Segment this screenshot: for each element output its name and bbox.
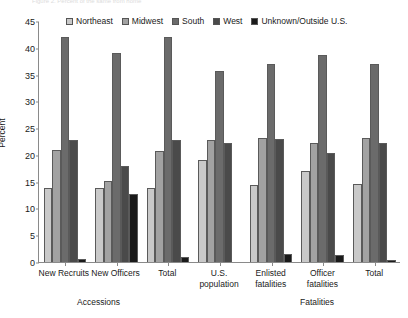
x-axis-tick-label: New Recruits	[38, 268, 90, 290]
group-label-accessions: Accessions	[77, 297, 120, 307]
x-axis-tick-mark	[168, 262, 169, 266]
bar-chart-figure: Figure 2. Percent of the same from home …	[0, 0, 408, 318]
x-axis-tick-label: Total	[348, 268, 400, 290]
x-axis-tick-mark	[65, 262, 66, 266]
bar	[327, 153, 336, 262]
bar	[52, 150, 61, 262]
bar	[267, 64, 276, 262]
bar	[69, 140, 78, 262]
bar	[95, 188, 104, 262]
bar	[181, 257, 190, 262]
bar	[121, 166, 130, 262]
y-axis-tick-mark	[36, 22, 39, 23]
x-axis-tick-labels: New RecruitsNew OfficersTotalU.S. popula…	[38, 268, 400, 290]
bar	[335, 255, 344, 262]
y-axis-tick-mark	[36, 263, 39, 264]
x-axis-tick-label: Enlisted fatalities	[245, 268, 297, 290]
x-axis-tick-mark	[323, 262, 324, 266]
y-axis-tick-mark	[36, 102, 39, 103]
bar	[387, 260, 396, 262]
bar	[215, 71, 224, 262]
bar	[198, 160, 207, 262]
bar	[353, 184, 362, 262]
y-axis-label: Percent	[0, 118, 7, 147]
bar	[147, 188, 156, 262]
bar-group	[91, 22, 143, 262]
group-label-fatalities: Fatalities	[300, 297, 334, 307]
bar-group	[194, 22, 246, 262]
bar	[258, 138, 267, 262]
bar	[310, 143, 319, 262]
bar	[44, 188, 53, 262]
bar-group	[142, 22, 194, 262]
bar	[362, 138, 371, 262]
bar	[155, 151, 164, 262]
bar	[379, 143, 388, 262]
plot-area: 051015202530354045	[38, 22, 400, 263]
x-axis-tick-label: U.S. population	[193, 268, 245, 290]
x-axis-tick-mark	[375, 262, 376, 266]
y-axis-tick-mark	[36, 48, 39, 49]
bar	[61, 37, 70, 262]
bar-group	[39, 22, 91, 262]
bar	[112, 53, 121, 262]
bar	[78, 259, 87, 262]
bar	[164, 37, 173, 262]
bar	[224, 143, 233, 262]
y-axis-tick-mark	[36, 75, 39, 76]
bar-group	[297, 22, 349, 262]
bar	[129, 194, 138, 262]
bar-group	[348, 22, 400, 262]
bar	[172, 140, 181, 262]
bar	[284, 254, 293, 262]
bar	[301, 171, 310, 262]
bar	[207, 140, 216, 262]
y-axis-tick-mark	[36, 129, 39, 130]
y-axis-tick-mark	[36, 155, 39, 156]
bar-groups	[39, 22, 400, 262]
x-axis-tick-mark	[117, 262, 118, 266]
cut-off-title: Figure 2. Percent of the same from home	[32, 0, 252, 5]
bar	[275, 139, 284, 262]
bar	[104, 181, 113, 262]
x-axis-tick-mark	[220, 262, 221, 266]
y-axis-tick-mark	[36, 236, 39, 237]
x-axis-tick-mark	[272, 262, 273, 266]
bar	[250, 185, 259, 262]
x-axis-tick-label: New Officers	[90, 268, 142, 290]
bar	[318, 55, 327, 262]
y-axis-tick-mark	[36, 209, 39, 210]
x-axis-tick-label: Total	[141, 268, 193, 290]
y-axis-tick-mark	[36, 182, 39, 183]
x-axis-tick-label: Officer fatalities	[297, 268, 349, 290]
bar-group	[245, 22, 297, 262]
bar	[370, 64, 379, 262]
